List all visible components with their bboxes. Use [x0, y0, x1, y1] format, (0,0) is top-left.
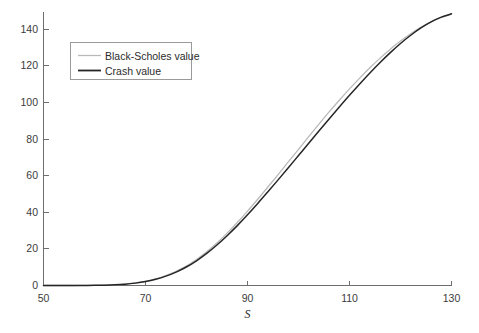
x-tick-label: 110 — [341, 292, 358, 304]
y-axis-ticks: 0 20 40 60 80 100 120 140 — [20, 23, 48, 291]
x-tick-label: 50 — [38, 292, 50, 304]
legend-label-black-scholes: Black-Scholes value — [105, 50, 200, 62]
legend: Black-Scholes value Crash value — [71, 43, 200, 80]
y-tick-label: 0 — [32, 279, 38, 291]
chart-figure: 0 20 40 60 80 100 120 140 50 70 90 — [0, 0, 479, 333]
x-axis-ticks: 50 70 90 110 130 — [38, 281, 461, 305]
line-chart-canvas: 0 20 40 60 80 100 120 140 50 70 90 — [0, 0, 479, 333]
y-tick-label: 80 — [26, 133, 38, 145]
legend-label-crash: Crash value — [105, 65, 161, 77]
y-tick-label: 140 — [20, 23, 38, 35]
y-tick-label: 100 — [20, 96, 38, 108]
x-tick-label: 130 — [443, 292, 461, 304]
x-tick-label: 70 — [140, 292, 152, 304]
y-tick-label: 20 — [26, 242, 38, 254]
y-tick-label: 120 — [20, 59, 38, 71]
y-tick-label: 40 — [26, 206, 38, 218]
y-tick-label: 60 — [26, 169, 38, 181]
x-axis-title: S — [245, 307, 251, 321]
x-tick-label: 90 — [242, 292, 254, 304]
